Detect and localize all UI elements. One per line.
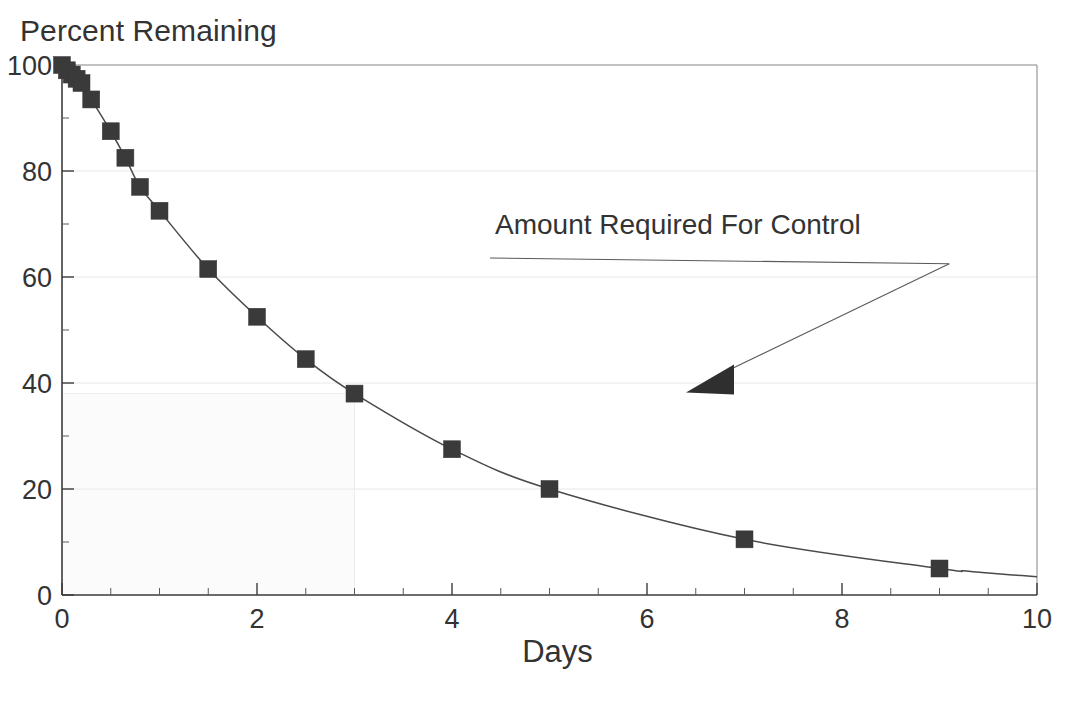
x-axis-tick-label: 0 [32,604,92,635]
x-axis-tick-labels: 0246810 [0,0,1067,704]
annotation-label: Amount Required For Control [495,211,861,239]
x-axis-tick-label: 6 [617,604,677,635]
x-axis-tick-label: 4 [422,604,482,635]
x-axis-tick-label: 10 [1007,604,1067,635]
x-axis-tick-label: 8 [812,604,872,635]
chart-figure: Percent Remaining Days 020406080100 0246… [0,0,1067,704]
x-axis-tick-label: 2 [227,604,287,635]
